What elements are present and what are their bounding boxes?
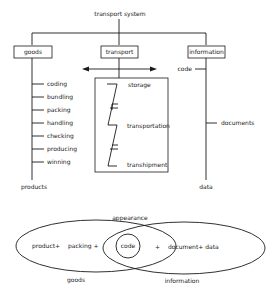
goods-box: goods (14, 46, 52, 58)
information-box: information (188, 46, 225, 58)
transport-stage: transportation (127, 122, 170, 130)
information-item: documents (221, 119, 254, 126)
information-item: code (178, 65, 193, 72)
data-label: data (199, 183, 213, 190)
transport-box-label: transport (106, 48, 134, 56)
venn-left-label: goods (67, 276, 85, 284)
transport-system-diagram: transport system goods transport informa… (0, 0, 267, 291)
goods-item: packing (47, 106, 71, 114)
venn-right-text: document+ data (168, 243, 219, 250)
venn-left-text-2: packing + (68, 242, 98, 250)
venn-left-text-1: product+ (32, 242, 60, 250)
arrow-right-icon (150, 67, 157, 72)
diagram-title: transport system (94, 10, 145, 18)
goods-item: bundling (47, 93, 73, 101)
transport-stage: storage (128, 81, 151, 89)
products-label: products (21, 183, 47, 191)
double-arrow (82, 67, 157, 72)
goods-items: coding bundling packing handling checkin… (32, 80, 77, 166)
venn-right-label: information (165, 277, 200, 284)
arrow-left-icon (82, 67, 89, 72)
venn-right-plus: + (155, 243, 160, 250)
goods-item: checking (47, 132, 74, 140)
venn-center-text: code (121, 242, 136, 249)
transport-stage: transhipment (127, 161, 168, 169)
transport-box: transport (101, 46, 138, 58)
information-box-label: information (189, 48, 224, 55)
goods-item: handling (47, 119, 73, 127)
goods-item: winning (47, 158, 71, 166)
goods-item: coding (47, 80, 67, 88)
goods-box-label: goods (24, 48, 42, 56)
goods-item: producing (47, 145, 77, 153)
